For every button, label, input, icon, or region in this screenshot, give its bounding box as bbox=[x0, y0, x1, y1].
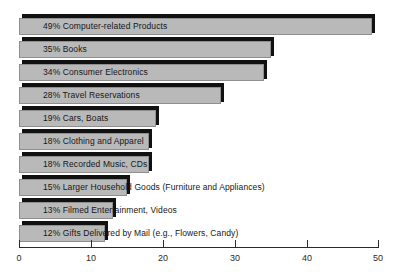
bar-value-label: 15% Larger Household Goods (Furniture an… bbox=[43, 182, 265, 193]
bar-value-label: 19% Cars, Boats bbox=[43, 113, 108, 124]
bar-value-label: 49% Computer-related Products bbox=[43, 21, 167, 32]
axis-tick-label: 20 bbox=[158, 253, 168, 264]
axis-tick-label: 50 bbox=[373, 253, 383, 264]
axis-tick-label: 10 bbox=[86, 253, 96, 264]
bar-value-label: 18% Clothing and Apparel bbox=[43, 136, 144, 147]
axis-tick-label: 40 bbox=[302, 253, 312, 264]
bar-value-label: 28% Travel Reservations bbox=[43, 90, 140, 101]
bar-value-label: 18% Recorded Music, CDs bbox=[43, 159, 147, 170]
bar-value-label: 35% Books bbox=[43, 44, 87, 55]
axis-tick-label: 0 bbox=[16, 253, 21, 264]
bar-chart: 49% Computer-related Products 35% Books … bbox=[0, 0, 401, 280]
bar-value-label: 34% Consumer Electronics bbox=[43, 67, 148, 78]
bar-value-label: 12% Gifts Delivered by Mail (e.g., Flowe… bbox=[43, 228, 238, 239]
axis-tick-label: 30 bbox=[230, 253, 240, 264]
plot-area: 49% Computer-related Products 35% Books … bbox=[0, 0, 401, 248]
bar-value-label: 13% Filmed Entertainment, Videos bbox=[43, 205, 177, 216]
